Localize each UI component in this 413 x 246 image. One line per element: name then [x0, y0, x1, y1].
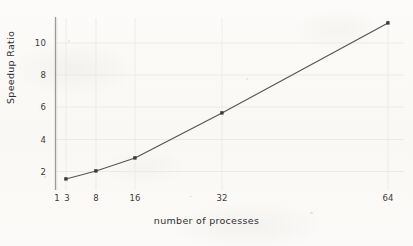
data-point-marker [220, 111, 223, 114]
data-point-marker [386, 21, 389, 24]
chart-figure: 10 8 6 4 2 1 3 8 16 32 64 Speedup Ratio … [0, 0, 413, 246]
x-tick-label-1: 1 [54, 193, 60, 203]
x-tick-label-64: 64 [382, 193, 393, 203]
gridlines-horizontal [56, 43, 404, 172]
y-tick-label-10: 10 [28, 38, 46, 48]
y-tick-label-2: 2 [28, 167, 46, 177]
data-point-marker [94, 169, 97, 172]
gridlines-vertical [57, 18, 388, 190]
y-axis-title: Speedup Ratio [5, 31, 16, 104]
x-axis-title: number of processes [0, 215, 413, 226]
y-tick-label-8: 8 [28, 70, 46, 80]
data-point-marker [133, 156, 136, 159]
y-tick-label-6: 6 [28, 102, 46, 112]
data-point-marker [64, 177, 67, 180]
plot-canvas [0, 0, 413, 246]
x-tick-label-8: 8 [93, 193, 99, 203]
data-line [66, 23, 388, 179]
x-tick-label-16: 16 [129, 193, 140, 203]
y-tick-label-4: 4 [28, 135, 46, 145]
x-tick-label-32: 32 [216, 193, 227, 203]
x-tick-label-3: 3 [64, 193, 70, 203]
data-markers [64, 21, 389, 180]
